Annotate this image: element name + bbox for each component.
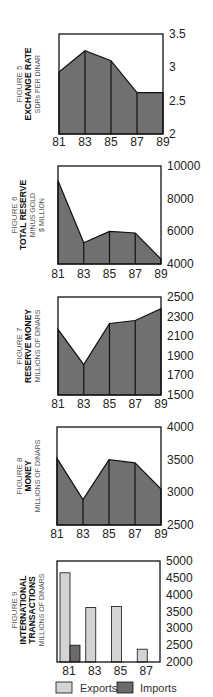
bar-exports (112, 606, 122, 662)
bar-exports (86, 607, 96, 662)
y-tick-label: 5000 (166, 554, 193, 568)
y-tick-label: 2000 (166, 655, 193, 669)
y-tick-label: 4500 (166, 571, 193, 585)
bar-exports (60, 573, 70, 662)
figure-9-international-transactions: FIGURE 9 INTERNATIONAL TRANSACTIONS MILL… (0, 0, 213, 697)
legend-label-exports: Exports (80, 682, 118, 694)
x-tick-label: 83 (88, 664, 102, 678)
x-tick-label: 85 (114, 664, 128, 678)
y-tick-label: 3000 (166, 621, 193, 635)
y-tick-label: 2500 (166, 638, 193, 652)
bar-imports (70, 645, 80, 662)
legend-swatch-imports (117, 682, 133, 693)
legend-label-imports: Imports (140, 682, 177, 694)
y-tick-label: 4000 (166, 588, 193, 602)
y-tick-label: 3500 (166, 605, 193, 619)
bar-exports (137, 649, 147, 662)
x-tick-label: 81 (62, 664, 76, 678)
legend-swatch-exports (56, 682, 72, 693)
international-transactions-bar-chart: 81838587ExportsImports500045004000350030… (0, 0, 213, 697)
x-tick-label: 87 (140, 664, 154, 678)
